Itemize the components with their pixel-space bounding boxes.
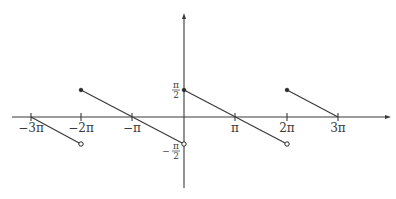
y-label-neg-pi-over-2: − π 2 bbox=[162, 141, 180, 161]
closed-dot-icon bbox=[182, 88, 186, 92]
y-label-neg-sign: − bbox=[162, 146, 170, 156]
x-axis-arrow-icon bbox=[385, 115, 391, 119]
x-label-neg2pi: −2π bbox=[68, 121, 94, 135]
x-tick-labels: −3π −2π −π π 2π 3π bbox=[18, 121, 346, 135]
x-label-neg3pi: −3π bbox=[18, 121, 44, 135]
open-dot-icon bbox=[79, 142, 83, 146]
closed-dot-icon bbox=[79, 88, 83, 92]
sawtooth-graph: −3π −2π −π π 2π 3π π 2 − π 2 bbox=[0, 0, 396, 199]
open-dot-icon bbox=[285, 142, 289, 146]
y-label-pi-over-2-num: π bbox=[173, 80, 179, 90]
segment-4 bbox=[287, 90, 338, 117]
y-label-pi-over-2: π 2 bbox=[172, 80, 180, 100]
open-dot-icon bbox=[182, 142, 186, 146]
closed-dot-icon bbox=[285, 88, 289, 92]
y-label-pi-over-2-den: 2 bbox=[173, 90, 179, 100]
y-axis bbox=[182, 13, 186, 188]
y-label-neg-pi-over-2-den: 2 bbox=[173, 151, 179, 161]
x-label-3pi: 3π bbox=[330, 121, 346, 135]
x-label-pi: π bbox=[231, 121, 239, 135]
y-label-neg-pi-over-2-num: π bbox=[173, 141, 179, 151]
x-label-2pi: 2π bbox=[279, 121, 295, 135]
x-label-negpi: −π bbox=[123, 121, 141, 135]
y-axis-arrow-icon bbox=[182, 13, 186, 19]
